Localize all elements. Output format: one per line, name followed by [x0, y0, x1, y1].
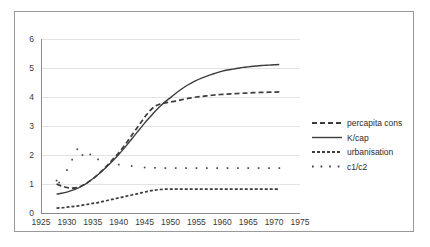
x-axis-tick-label: 1930: [57, 217, 76, 227]
legend-item-c1-c2[interactable]: c1/c2: [312, 162, 368, 172]
x-axis-tick-label: 1970: [265, 217, 284, 227]
data-point: [131, 165, 133, 167]
data-point: [268, 167, 270, 169]
data-point: [258, 167, 260, 169]
chart-frame: 0123456192519301935194019451950195519601…: [14, 11, 414, 232]
data-point: [278, 167, 280, 169]
data-point: [82, 154, 84, 156]
x-axis-tick-label: 1925: [32, 217, 51, 227]
legend-label: K/cap: [347, 133, 369, 143]
series-urbanisation: [57, 189, 280, 208]
data-point: [206, 167, 208, 169]
legend-item-k-cap[interactable]: K/cap: [312, 133, 369, 143]
y-axis-tick-label: 4: [29, 92, 34, 102]
x-axis-tick-label: 1945: [135, 217, 154, 227]
y-axis-tick-label: 5: [29, 63, 34, 73]
data-point: [196, 167, 198, 169]
legend-label: percapita cons: [347, 118, 402, 128]
data-point: [165, 167, 167, 169]
x-axis-tick-label: 1975: [291, 217, 310, 227]
legend-item-urbanisation[interactable]: urbanisation: [312, 147, 394, 157]
y-axis-tick-label: 3: [29, 121, 34, 131]
data-point: [97, 159, 99, 161]
series-line: [57, 92, 280, 188]
x-axis-tick-label: 1960: [213, 217, 232, 227]
x-axis-tick-label: 1935: [83, 217, 102, 227]
data-point: [216, 167, 218, 169]
chart-plot: 0123456192519301935194019451950195519601…: [15, 12, 413, 231]
data-point: [76, 148, 78, 150]
data-point: [118, 164, 120, 166]
series-c1-c2: [56, 148, 280, 183]
x-axis-tick-label: 1955: [187, 217, 206, 227]
data-point: [247, 167, 249, 169]
y-axis-tick-label: 6: [29, 34, 34, 44]
x-axis-tick-label: 1950: [161, 217, 180, 227]
data-point: [71, 159, 73, 161]
legend-item-percapita-cons[interactable]: percapita cons: [312, 118, 402, 128]
data-point: [144, 167, 146, 169]
legend-label: c1/c2: [347, 162, 368, 172]
data-point: [66, 169, 68, 171]
y-axis-tick-label: 1: [29, 179, 34, 189]
legend-label: urbanisation: [347, 147, 394, 157]
data-point: [227, 167, 229, 169]
x-axis-tick-label: 1965: [239, 217, 258, 227]
data-point: [58, 182, 60, 184]
x-axis-tick-label: 1940: [109, 217, 128, 227]
series-percapita-cons: [57, 92, 280, 188]
data-point: [237, 167, 239, 169]
series-line: [57, 65, 280, 195]
data-point: [154, 167, 156, 169]
data-point: [175, 167, 177, 169]
y-axis-tick-label: 2: [29, 150, 34, 160]
data-point: [89, 154, 91, 156]
data-point: [185, 167, 187, 169]
series-line: [57, 189, 280, 208]
series-k-cap: [57, 65, 280, 195]
data-point: [56, 180, 58, 182]
